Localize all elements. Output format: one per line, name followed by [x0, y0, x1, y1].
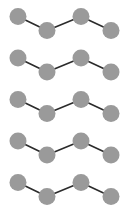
row-3-node-a [10, 91, 27, 108]
row-1-node-d [103, 22, 120, 39]
row-3-node-c [73, 91, 90, 108]
zigzag-chain-figure [0, 0, 129, 213]
row-5-node-a [10, 174, 27, 191]
row-5-node-b [39, 188, 56, 205]
row-3-node-b [39, 105, 56, 122]
row-4-node-d [103, 147, 120, 164]
row-1-node-b [39, 22, 56, 39]
row-5-node-c [73, 174, 90, 191]
row-4-node-c [73, 133, 90, 150]
row-4-node-a [10, 133, 27, 150]
row-2-node-d [103, 64, 120, 81]
row-2-node-c [73, 50, 90, 67]
row-1-node-c [73, 8, 90, 25]
row-5-node-d [103, 188, 120, 205]
row-1-node-a [10, 8, 27, 25]
row-2-node-a [10, 50, 27, 67]
row-4-node-b [39, 147, 56, 164]
row-3-node-d [103, 105, 120, 122]
figure-canvas [0, 0, 129, 213]
row-2-node-b [39, 64, 56, 81]
